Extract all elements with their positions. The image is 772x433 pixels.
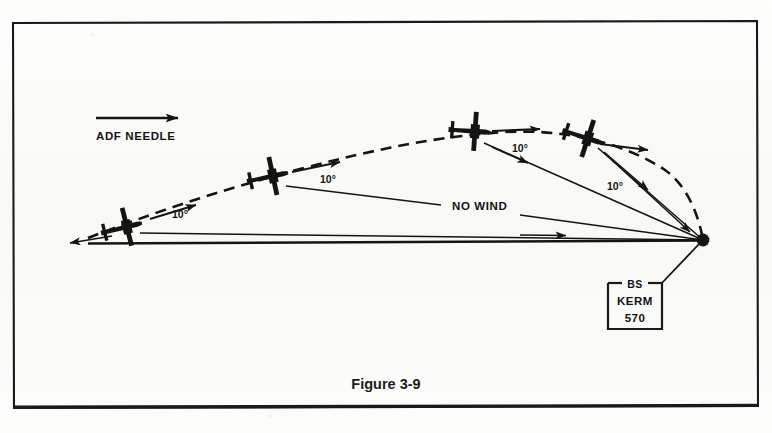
station-frequency: 570 (625, 312, 646, 324)
bearing-change-label-2: 10° (320, 173, 336, 185)
no-wind-course-line (88, 241, 703, 244)
station-name: KERM (617, 295, 653, 307)
adf-homing-diagram: ADF NEEDLE NO WIND (0, 0, 772, 433)
aircraft-position-4 (557, 112, 609, 162)
station-identifier-box: BS KERM 570 (608, 278, 662, 329)
adf-needle-label: ADF NEEDLE (96, 130, 175, 142)
bearing-change-label-1: 10° (172, 208, 188, 220)
aircraft-position-2 (243, 154, 292, 201)
aircraft-position-1 (96, 204, 146, 252)
station-leader-line (661, 243, 700, 284)
figure-page: ADF NEEDLE NO WIND (0, 0, 772, 433)
needle-arrow-position-4 (600, 144, 648, 150)
bearing-change-label-4: 10° (607, 180, 623, 192)
figure-caption: Figure 3-9 (351, 376, 420, 392)
needle-arrow-position-2 (292, 162, 340, 172)
aircraft-position-3 (447, 110, 492, 152)
station-ident-prefix: BS (627, 278, 643, 290)
no-wind-label: NO WIND (452, 200, 507, 212)
adf-needle-legend: ADF NEEDLE (96, 118, 178, 142)
bearing-change-label-3: 10° (512, 142, 528, 154)
